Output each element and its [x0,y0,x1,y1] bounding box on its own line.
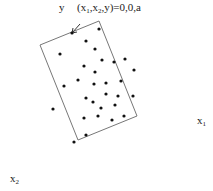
diagram-canvas [0,0,213,191]
data-point [123,57,126,60]
eq-mid: ,x [90,1,98,13]
data-point [51,107,54,110]
eq-end: ,y)=0,0,a [101,1,141,13]
data-point [84,39,87,42]
data-point [99,106,102,109]
data-point [72,140,75,143]
y-axis-label: y [59,1,65,13]
data-point [93,70,96,73]
arrow-icon [72,24,80,33]
data-point [84,96,87,99]
data-point [132,68,135,71]
data-point [112,60,115,63]
data-point [91,100,94,103]
x2-sub: 2 [16,178,20,186]
x1-axis-label: x1 [197,114,206,128]
data-point [70,31,73,34]
data-point [82,64,85,67]
data-point [104,92,107,95]
data-point [104,81,107,84]
data-point [82,116,85,119]
data-point [58,52,61,55]
x2-axis-label: x2 [10,172,19,186]
equation-label: (x1,x2,y)=0,0,a [77,1,141,15]
data-point [119,79,122,82]
data-point [113,103,116,106]
data-point [100,58,103,61]
x1-sub: 1 [203,120,207,128]
data-point [110,118,113,121]
data-point [122,114,125,117]
data-point [96,114,99,117]
data-point [97,27,100,30]
data-point [62,84,65,87]
data-point [131,94,134,97]
data-point [93,47,96,50]
data-point [92,82,95,85]
data-point [84,133,87,136]
eq-part: (x [77,1,86,13]
data-point [76,78,79,81]
data-point [116,94,119,97]
